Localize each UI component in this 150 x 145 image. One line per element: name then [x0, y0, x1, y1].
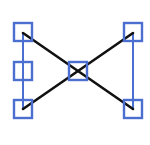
connector-lines [23, 33, 133, 109]
connector-graph-icon [0, 0, 150, 145]
